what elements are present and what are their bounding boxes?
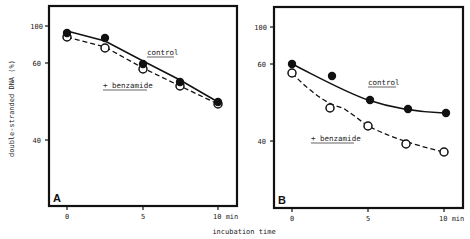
y-tick-label-60: 60: [258, 61, 266, 69]
x-tick-label-0: 0: [65, 213, 69, 221]
panel-a-letter: A: [53, 192, 61, 204]
panel-b-control-line: [292, 64, 444, 113]
panel-b-letter: B: [278, 194, 286, 206]
y-tick-label-40: 40: [33, 137, 41, 145]
panel-a-benzamide-label: + benzamide: [103, 81, 153, 90]
panel-b-control-label: control: [368, 78, 400, 87]
panel-a-control-label: control: [147, 48, 179, 57]
figure: double-stranded DNA (%) 100 60 40 0 5 10…: [0, 0, 470, 239]
y-axis-title: double-stranded DNA (%): [8, 60, 16, 157]
panel-b-frame: [274, 7, 463, 208]
panel-b: 100 60 40 0 5 10 min control: [254, 7, 464, 223]
x-tick-label-5: 5: [141, 213, 145, 221]
panel-a: 100 60 40 0 5 10 min control: [30, 6, 238, 221]
panel-b-benzamide-label: + benzamide: [311, 134, 361, 143]
y-tick-label-40: 40: [258, 138, 266, 146]
x-tick-label-10: 10 min: [213, 213, 238, 221]
x-axis-title: incubation time: [212, 228, 275, 236]
y-tick-label-100: 100: [30, 23, 43, 31]
y-tick-label-100: 100: [254, 24, 267, 32]
panel-a-frame: [49, 6, 237, 206]
y-tick-label-60: 60: [33, 60, 41, 68]
panel-b-control-markers: [288, 60, 450, 117]
x-tick-label-10: 10 min: [439, 215, 464, 223]
x-tick-label-0: 0: [290, 215, 294, 223]
panel-a-benzamide-markers: [63, 33, 222, 108]
x-tick-label-5: 5: [366, 215, 370, 223]
